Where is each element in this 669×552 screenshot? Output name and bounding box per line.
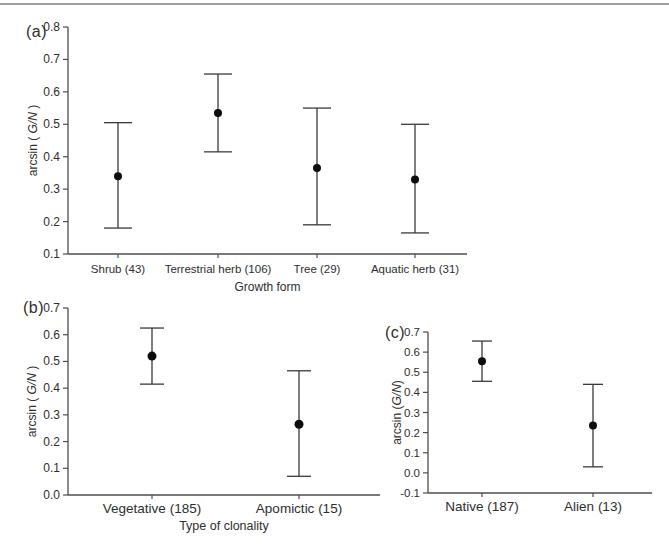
y-tick-label: 0.1 bbox=[43, 247, 60, 261]
category-label: Tree (29) bbox=[294, 263, 341, 275]
data-point bbox=[148, 352, 157, 361]
y-tick-label: 0.0 bbox=[404, 467, 420, 479]
y-tick-label: 0.4 bbox=[43, 150, 60, 164]
y-tick-label: 0.1 bbox=[404, 447, 420, 459]
y-tick-label: 0.7 bbox=[43, 52, 60, 66]
data-point bbox=[478, 357, 486, 365]
y-tick-label: 0.7 bbox=[404, 326, 420, 338]
x-axis-title: Growth form bbox=[234, 280, 300, 294]
y-tick-label: 0.2 bbox=[404, 427, 420, 439]
category-label: Shrub (43) bbox=[91, 263, 146, 275]
y-tick-label: 0.5 bbox=[43, 117, 60, 131]
category-label: Native (187) bbox=[445, 499, 519, 514]
data-point bbox=[411, 175, 419, 183]
category-label: Terrestrial herb (106) bbox=[165, 263, 272, 275]
y-tick-label: 0.6 bbox=[404, 346, 420, 358]
category-label: Aquatic herb (31) bbox=[371, 263, 459, 275]
y-tick-label: 0.6 bbox=[43, 328, 60, 342]
y-tick-label: 0.4 bbox=[43, 381, 60, 395]
y-tick-label: 0.3 bbox=[43, 182, 60, 196]
category-label: Alien (13) bbox=[564, 499, 622, 514]
y-tick-label: 0.3 bbox=[404, 407, 420, 419]
data-point bbox=[214, 109, 222, 117]
data-point bbox=[114, 172, 122, 180]
y-axis-title: arcsin ( G/N ) bbox=[25, 366, 39, 437]
y-tick-label: 0.7 bbox=[43, 301, 60, 315]
y-tick-label: 0.3 bbox=[43, 408, 60, 422]
y-tick-label: 0.8 bbox=[43, 20, 60, 34]
y-tick-label: 0.5 bbox=[43, 354, 60, 368]
y-axis-title: arcsin (G/N) bbox=[390, 380, 404, 445]
data-point bbox=[295, 420, 304, 429]
figure-canvas: 0.10.20.30.40.50.60.70.8Shrub (43)Terres… bbox=[0, 0, 669, 552]
x-axis-title: Type of clonality bbox=[179, 519, 269, 533]
category-label: Vegetative (185) bbox=[103, 501, 201, 516]
y-tick-label: 0.2 bbox=[43, 215, 60, 229]
y-tick-label: 0.4 bbox=[404, 386, 421, 398]
y-tick-label: 0.2 bbox=[43, 435, 60, 449]
y-tick-label: 0.0 bbox=[43, 488, 60, 502]
y-tick-label: 0.5 bbox=[404, 366, 420, 378]
y-tick-label: 0.6 bbox=[43, 85, 60, 99]
category-label: Apomictic (15) bbox=[256, 501, 342, 516]
y-tick-label: 0.1 bbox=[43, 461, 60, 475]
figure-page: (a) (b) (c) 0.10.20.30.40.50.60.70.8Shru… bbox=[0, 0, 669, 552]
y-tick-label: -0.1 bbox=[400, 487, 420, 499]
y-axis-title: arcsin ( G/N ) bbox=[26, 105, 40, 176]
data-point bbox=[589, 422, 597, 430]
data-point bbox=[313, 164, 321, 172]
